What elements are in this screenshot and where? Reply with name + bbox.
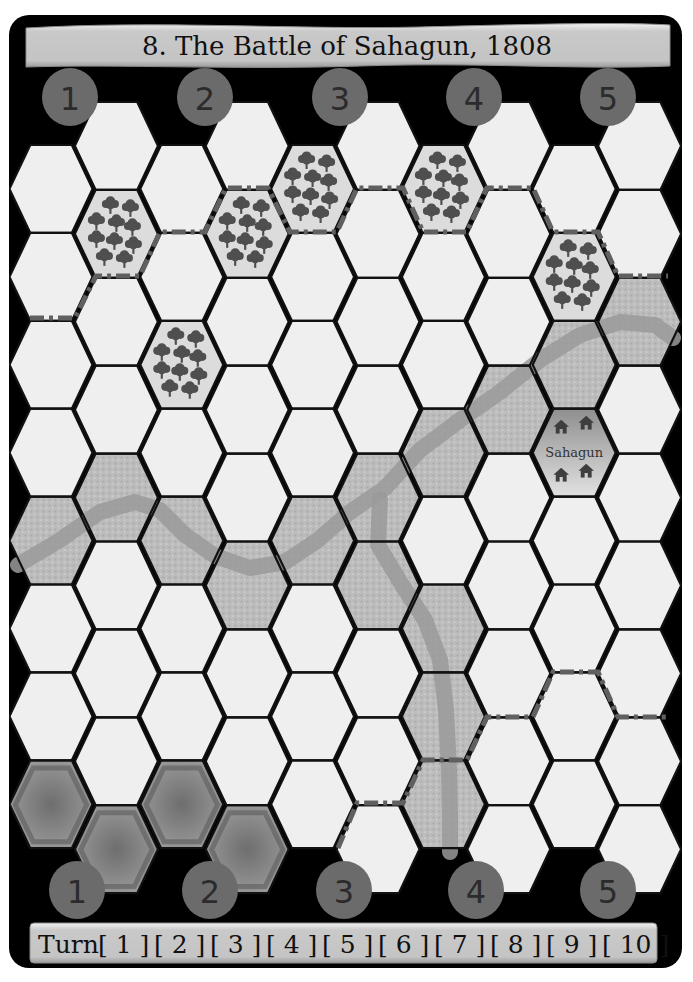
- title-banner: 8. The Battle of Sahagun, 1808: [26, 24, 670, 68]
- section-number: 2: [195, 80, 215, 118]
- top-marker-2: 2: [177, 68, 233, 126]
- turn-box-9[interactable]: [ 9 ]: [546, 930, 597, 959]
- section-number: 1: [67, 873, 87, 911]
- turn-cells: [ 1 ][ 2 ][ 3 ][ 4 ][ 5 ][ 6 ][ 7 ][ 8 ]…: [98, 930, 669, 959]
- turn-box-3[interactable]: [ 3 ]: [210, 930, 261, 959]
- top-marker-4: 4: [446, 68, 502, 126]
- game-board: Sahagun 8. The Battle of Sahagun, 1808 1…: [0, 0, 693, 982]
- turn-box-6[interactable]: [ 6 ]: [378, 930, 429, 959]
- top-marker-1: 1: [42, 68, 98, 126]
- section-number: 4: [466, 873, 486, 911]
- top-marker-5: 5: [580, 68, 636, 126]
- bottom-marker-4: 4: [448, 861, 504, 919]
- turn-box-1[interactable]: [ 1 ]: [98, 930, 149, 959]
- turn-box-5[interactable]: [ 5 ]: [322, 930, 373, 959]
- top-marker-3: 3: [312, 68, 368, 126]
- turn-box-2[interactable]: [ 2 ]: [154, 930, 205, 959]
- turn-box-4[interactable]: [ 4 ]: [266, 930, 317, 959]
- section-number: 3: [334, 873, 354, 911]
- section-number: 5: [598, 80, 618, 118]
- turn-box-10[interactable]: [ 10 ]: [602, 930, 669, 959]
- section-number: 5: [598, 873, 618, 911]
- turn-track: Turn [ 1 ][ 2 ][ 3 ][ 4 ][ 5 ][ 6 ][ 7 ]…: [30, 923, 669, 963]
- bottom-marker-1: 1: [49, 861, 105, 919]
- section-number: 4: [464, 80, 484, 118]
- bottom-marker-5: 5: [580, 861, 636, 919]
- page-title: 8. The Battle of Sahagun, 1808: [142, 31, 552, 61]
- section-number: 3: [330, 80, 350, 118]
- section-number: 1: [60, 80, 80, 118]
- turn-box-7[interactable]: [ 7 ]: [434, 930, 485, 959]
- section-number: 2: [200, 873, 220, 911]
- turn-track-label: Turn: [38, 930, 99, 959]
- bottom-marker-3: 3: [316, 861, 372, 919]
- turn-box-8[interactable]: [ 8 ]: [490, 930, 541, 959]
- town-label: Sahagun: [545, 445, 603, 460]
- bottom-marker-2: 2: [182, 861, 238, 919]
